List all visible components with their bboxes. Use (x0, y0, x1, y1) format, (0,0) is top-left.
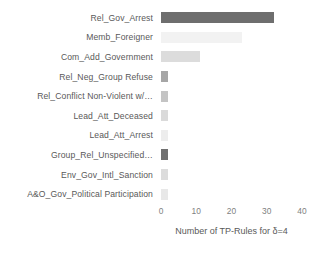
category-label-row: Com_Add_Government (0, 47, 157, 67)
category-label-row: Rel_Neg_Group Refuse (0, 67, 157, 87)
x-axis-title: Number of TP-Rules for δ=4 (161, 226, 302, 236)
bar-row (161, 86, 302, 106)
category-label: Env_Gov_Intl_Sanction (61, 170, 153, 180)
bar (161, 12, 274, 23)
category-label: Com_Add_Government (61, 52, 153, 62)
category-label-row: Rel_Gov_Arrest (0, 8, 157, 28)
category-label-row: Lead_Att_Arrest (0, 126, 157, 146)
bar (161, 149, 168, 160)
bar-row (161, 28, 302, 48)
x-tick-label: 40 (297, 206, 306, 216)
category-label-row: Env_Gov_Intl_Sanction (0, 165, 157, 185)
bar (161, 110, 168, 121)
category-label-column: Rel_Gov_Arrest Memb_Foreigner Com_Add_Go… (0, 8, 157, 204)
bar-row (161, 8, 302, 28)
category-label-row: Memb_Foreigner (0, 28, 157, 48)
category-label: Memb_Foreigner (86, 32, 153, 42)
bar (161, 51, 200, 62)
bar-row (161, 126, 302, 146)
bar-row (161, 67, 302, 87)
x-axis: 0 10 20 30 40 (161, 206, 302, 220)
plot-area (161, 8, 302, 204)
x-tick-label: 30 (262, 206, 271, 216)
x-tick-label: 0 (159, 206, 164, 216)
category-label: Group_Rel_Unspecified… (51, 150, 153, 160)
category-label: Rel_Gov_Arrest (90, 13, 153, 23)
bar-row (161, 165, 302, 185)
category-label: A&O_Gov_Political Participation (27, 189, 153, 199)
category-label-row: Rel_Conflict Non-Violent w/… (0, 86, 157, 106)
bar (161, 91, 168, 102)
category-label: Rel_Conflict Non-Violent w/… (37, 91, 153, 101)
bar-row (161, 184, 302, 204)
category-label: Lead_Att_Arrest (89, 130, 153, 140)
x-tick-label: 10 (192, 206, 201, 216)
bar-chart: Rel_Gov_Arrest Memb_Foreigner Com_Add_Go… (0, 0, 320, 266)
category-label: Lead_Att_Deceased (73, 111, 153, 121)
category-label: Rel_Neg_Group Refuse (59, 72, 153, 82)
x-tick-label: 20 (227, 206, 236, 216)
bar (161, 169, 168, 180)
bar (161, 32, 242, 43)
bar-row (161, 145, 302, 165)
bar (161, 130, 168, 141)
bar (161, 71, 168, 82)
category-label-row: A&O_Gov_Political Participation (0, 184, 157, 204)
bar-row (161, 47, 302, 67)
bar-row (161, 106, 302, 126)
bar (161, 189, 168, 200)
category-label-row: Group_Rel_Unspecified… (0, 145, 157, 165)
category-label-row: Lead_Att_Deceased (0, 106, 157, 126)
